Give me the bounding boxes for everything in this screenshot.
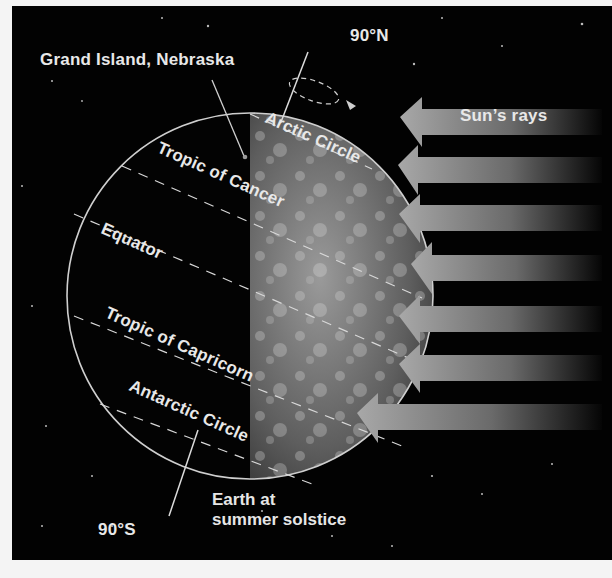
rotation-arrowhead [346,100,356,110]
diagram-graphics [12,6,612,560]
caption-line-1: Earth at [212,490,346,510]
figure-caption: Earth at summer solstice [212,490,346,530]
rotation-arrow-icon [286,73,342,110]
south-pole-label: 90°S [98,520,136,540]
north-pole-label: 90°N [350,26,389,46]
earth-globe [67,52,450,516]
caption-line-2: summer solstice [212,510,346,530]
sun-rays-label: Sun’s rays [460,106,547,126]
earth-axis-north [281,52,308,122]
location-label: Grand Island, Nebraska [40,50,234,70]
solstice-diagram: Grand Island, Nebraska 90°N Sun’s rays A… [12,6,612,560]
